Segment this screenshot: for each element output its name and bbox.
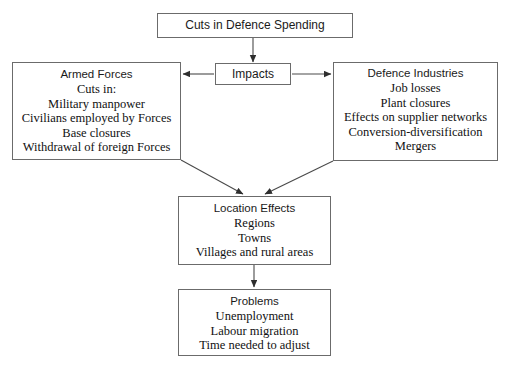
node-problems[interactable]: Problems Unemployment Labour migration T…	[178, 289, 331, 356]
node-cuts-in-defence-spending[interactable]: Cuts in Defence Spending	[157, 13, 353, 38]
node-line: Cuts in:	[13, 82, 180, 97]
node-line: Towns	[179, 231, 330, 246]
node-heading: Defence Industries	[334, 66, 497, 81]
node-heading: Impacts	[232, 67, 274, 82]
node-line: Base closures	[13, 126, 180, 141]
node-location-effects[interactable]: Location Effects Regions Towns Villages …	[178, 196, 331, 265]
node-line: Time needed to adjust	[179, 338, 330, 353]
node-armed-forces[interactable]: Armed Forces Cuts in: Military manpower …	[12, 62, 181, 160]
node-line: Civilians employed by Forces	[13, 111, 180, 126]
node-line: Regions	[179, 216, 330, 231]
node-line: Military manpower	[13, 97, 180, 112]
node-heading: Cuts in Defence Spending	[185, 18, 324, 33]
node-heading: Armed Forces	[13, 67, 180, 82]
node-line: Labour migration	[179, 324, 330, 339]
connector-defence-industries-to-location-effects	[265, 161, 333, 194]
node-line: Job losses	[334, 81, 497, 96]
node-line: Villages and rural areas	[179, 245, 330, 260]
node-line: Plant closures	[334, 96, 497, 111]
node-defence-industries[interactable]: Defence Industries Job losses Plant clos…	[333, 62, 498, 161]
connector-armed-forces-to-location-effects	[181, 160, 243, 194]
node-line: Effects on supplier networks	[334, 110, 497, 125]
node-impacts[interactable]: Impacts	[215, 63, 291, 85]
node-line: Unemployment	[179, 309, 330, 324]
node-line: Withdrawal of foreign Forces	[13, 140, 180, 155]
node-heading: Problems	[179, 294, 330, 309]
node-line: Conversion-diversification	[334, 125, 497, 140]
diagram-canvas: Cuts in Defence Spending Impacts Armed F…	[0, 0, 510, 374]
node-line: Mergers	[334, 139, 497, 154]
node-heading: Location Effects	[179, 201, 330, 216]
